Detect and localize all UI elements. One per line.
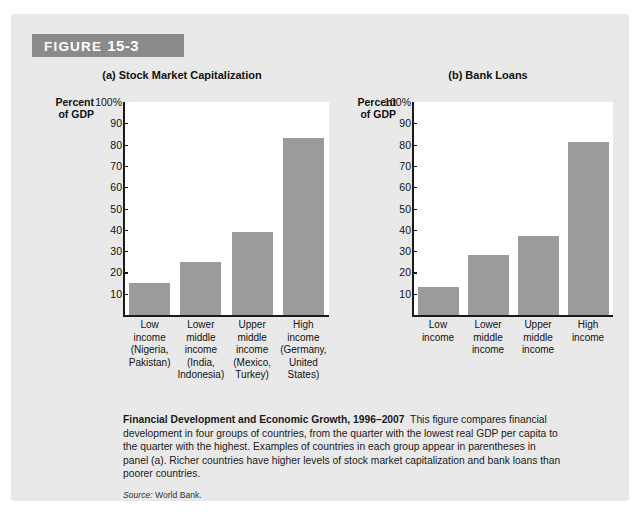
- caption-text: Financial Development and Economic Growt…: [123, 413, 563, 481]
- figure-banner-label: FIGURE 15-3: [44, 37, 139, 54]
- bar: [468, 255, 509, 315]
- x-axis-category-line: income: [227, 344, 278, 357]
- bar: [232, 232, 273, 315]
- x-axis-category-line: Pakistan): [124, 357, 175, 370]
- y-axis-tick: 100%: [68, 97, 128, 108]
- x-axis-category-line: income: [124, 332, 175, 345]
- panel-b-title: (b) Bank Loans: [359, 69, 617, 81]
- x-axis-category-line: High: [563, 319, 613, 332]
- bar: [518, 236, 559, 315]
- y-axis-tick: 20: [357, 267, 417, 278]
- bar: [180, 262, 221, 315]
- y-axis-tick-label: 40: [110, 224, 122, 236]
- x-axis-category-line: Upper: [513, 319, 563, 332]
- x-axis-category-line: middle: [463, 332, 513, 345]
- y-axis-tick: 20: [68, 267, 128, 278]
- y-axis-tick-label: 20: [110, 266, 122, 278]
- panel-a-title: (a) Stock Market Capitalization: [48, 69, 316, 81]
- y-axis-tick: 10: [68, 289, 128, 300]
- x-axis-category-line: Indonesia): [175, 369, 226, 382]
- y-axis-tick-label: 60: [399, 181, 411, 193]
- bar: [129, 283, 170, 315]
- x-axis-category-line: income: [278, 332, 329, 345]
- x-axis-category-line: Lower: [175, 319, 226, 332]
- x-axis-category-label: Highincome(Germany,UnitedStates): [278, 319, 329, 382]
- x-axis-category-line: income: [175, 344, 226, 357]
- x-axis-category-line: States): [278, 369, 329, 382]
- y-axis-tick-label: 10: [399, 288, 411, 300]
- panel-a-x-axis: [123, 315, 329, 317]
- figure-banner-number: 15-3: [107, 37, 139, 54]
- x-axis-category-label: Lowermiddleincome: [463, 319, 513, 357]
- y-axis-tick: 90: [357, 118, 417, 129]
- y-axis-tick-label: 30: [110, 245, 122, 257]
- x-axis-category-label: Uppermiddleincome: [513, 319, 563, 357]
- x-axis-category-line: Lower: [463, 319, 513, 332]
- x-axis-category-label: Uppermiddleincome(Mexico,Turkey): [227, 319, 278, 382]
- y-axis-tick: 40: [68, 225, 128, 236]
- x-axis-category-line: (Germany,: [278, 344, 329, 357]
- y-axis-tick: 100%: [357, 97, 417, 108]
- y-axis-tick: 80: [68, 140, 128, 151]
- x-axis-category-line: Low: [124, 319, 175, 332]
- x-axis-category-line: income: [513, 344, 563, 357]
- y-axis-tick-label: 90: [110, 117, 122, 129]
- panel-b-x-axis: [412, 315, 613, 317]
- y-axis-tick-label: 80: [399, 139, 411, 151]
- y-axis-tick-label: 40: [399, 224, 411, 236]
- y-axis-tick-label: 10: [110, 288, 122, 300]
- x-axis-category-label: Lowincome(Nigeria,Pakistan): [124, 319, 175, 369]
- source-label: Source:: [123, 490, 153, 500]
- caption-source: Source: World Bank.: [123, 490, 563, 500]
- y-axis-tick-label: 20: [399, 266, 411, 278]
- x-axis-category-line: United: [278, 357, 329, 370]
- figure-card: FIGURE 15-3 (a) Stock Market Capitalizat…: [11, 14, 629, 501]
- chart-panel-b: (b) Bank Loans Percent of GDP 100%908070…: [351, 69, 631, 404]
- caption-title: Financial Development and Economic Growt…: [123, 414, 405, 425]
- y-axis-tick: 10: [357, 289, 417, 300]
- x-axis-category-line: income: [563, 332, 613, 345]
- x-axis-category-line: Turkey): [227, 369, 278, 382]
- y-axis-tick: 60: [68, 182, 128, 193]
- y-axis-tick-label: 100%: [95, 96, 122, 108]
- y-axis-tick: 80: [357, 140, 417, 151]
- panel-b-bars: [413, 102, 613, 315]
- y-axis-tick: 40: [357, 225, 417, 236]
- x-axis-category-line: Low: [413, 319, 463, 332]
- y-axis-tick-label: 50: [110, 203, 122, 215]
- y-axis-tick: 50: [68, 204, 128, 215]
- bar: [568, 142, 609, 315]
- y-axis-tick: 50: [357, 204, 417, 215]
- x-axis-category-line: middle: [513, 332, 563, 345]
- panel-a-bars: [124, 102, 329, 315]
- source-value: World Bank.: [155, 490, 202, 500]
- y-axis-tick-label: 30: [399, 245, 411, 257]
- x-axis-category-line: High: [278, 319, 329, 332]
- figure-banner: FIGURE 15-3: [32, 34, 184, 57]
- bar: [418, 287, 459, 315]
- y-axis-tick: 70: [357, 161, 417, 172]
- x-axis-category-label: Lowincome: [413, 319, 463, 344]
- y-axis-tick: 70: [68, 161, 128, 172]
- y-axis-tick: 60: [357, 182, 417, 193]
- figure-caption: Financial Development and Economic Growt…: [123, 413, 563, 500]
- x-axis-category-label: Lowermiddleincome(India,Indonesia): [175, 319, 226, 382]
- x-axis-category-line: middle: [227, 332, 278, 345]
- y-axis-tick-label: 100%: [384, 96, 411, 108]
- bar: [283, 138, 324, 315]
- y-axis-tick: 30: [68, 246, 128, 257]
- x-axis-category-line: Upper: [227, 319, 278, 332]
- x-axis-category-line: (India,: [175, 357, 226, 370]
- y-axis-tick-label: 80: [110, 139, 122, 151]
- y-axis-tick-label: 60: [110, 181, 122, 193]
- figure-banner-prefix: FIGURE: [44, 39, 102, 54]
- x-axis-category-line: (Nigeria,: [124, 344, 175, 357]
- x-axis-category-line: (Mexico,: [227, 357, 278, 370]
- y-axis-tick: 30: [357, 246, 417, 257]
- y-axis-tick-label: 50: [399, 203, 411, 215]
- x-axis-category-line: middle: [175, 332, 226, 345]
- y-axis-tick: 90: [68, 118, 128, 129]
- y-axis-tick-label: 70: [399, 160, 411, 172]
- chart-panel-a: (a) Stock Market Capitalization Percent …: [34, 69, 334, 404]
- x-axis-category-line: income: [413, 332, 463, 345]
